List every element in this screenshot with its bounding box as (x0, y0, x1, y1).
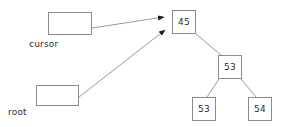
pointer-arrow-cursor (92, 17, 164, 28)
root-pointer-label: root (8, 107, 27, 117)
edge-45-to-53 (196, 34, 221, 55)
diagram-canvas (0, 0, 286, 127)
root-pointer-box[interactable] (36, 85, 79, 106)
tree-node-45[interactable]: 45 (172, 10, 196, 34)
tree-node-53-leaf[interactable]: 53 (192, 97, 216, 121)
tree-node-54-leaf[interactable]: 54 (248, 97, 272, 121)
tree-node-53-parent[interactable]: 53 (218, 55, 242, 79)
edge-53-to-53-left (207, 79, 219, 97)
pointer-arrow-root (74, 30, 165, 101)
edge-53-to-54 (241, 79, 256, 97)
cursor-pointer-box[interactable] (48, 12, 92, 35)
cursor-pointer-label: cursor (29, 39, 58, 49)
